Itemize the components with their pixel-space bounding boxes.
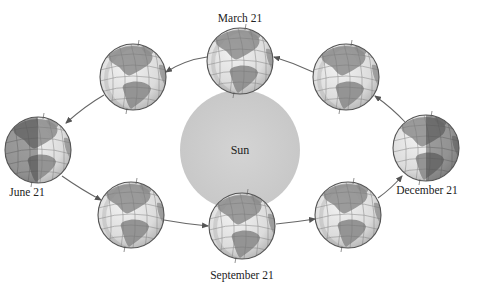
earth-orbit-seasons-diagram: Sun March 21 June 21 September 21 Decemb… [0,0,483,289]
sun-label: Sun [231,143,250,157]
label-december-21: December 21 [396,184,458,196]
globe-top-right [313,40,385,114]
orbit-arrow-topleft-to-june [66,95,104,123]
night-side-shade [5,117,38,183]
sun: Sun [180,90,300,210]
globe-top-left [100,40,172,114]
label-september-21: September 21 [210,269,274,282]
globe-bottom-right [315,178,387,252]
label-march-21: March 21 [218,12,263,24]
orbit-arrow-september-to-bottomright [276,219,315,224]
globe-march [207,24,279,98]
night-side-shade [426,115,459,181]
label-june-21: June 21 [9,186,45,198]
orbit-arrow-march-to-topleft [166,57,207,72]
orbit-arrow-june-to-bottomleft [62,176,101,200]
globe-december [393,111,461,185]
orbit-arrow-bottomleft-to-september [164,220,208,226]
orbit-arrow-december-to-topright [375,96,405,122]
orbit-arrow-topright-to-march [274,57,313,72]
globe-bottom-left [98,178,170,252]
